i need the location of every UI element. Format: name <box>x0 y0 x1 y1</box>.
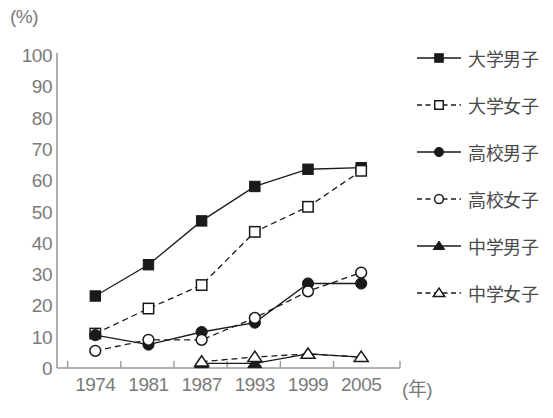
y-tick-label: 50 <box>4 202 52 221</box>
legend-label: 高校女子 <box>468 186 538 212</box>
y-tick-label: 20 <box>4 296 52 315</box>
y-tick-label: 30 <box>4 265 52 284</box>
legend-label: 大学女子 <box>468 92 538 118</box>
legend-marker-open-square-icon <box>416 98 462 112</box>
y-axis-tick-labels: 0102030405060708090100 <box>0 0 52 418</box>
series-2 <box>90 278 367 350</box>
x-tick-label: 1981 <box>128 374 168 396</box>
legend-item[interactable]: 高校男子 <box>416 140 538 164</box>
y-tick-label: 70 <box>4 139 52 158</box>
legend-marker-filled-triangle-icon <box>416 239 462 253</box>
x-tick-label: 1993 <box>235 374 275 396</box>
y-tick-label: 10 <box>4 327 52 346</box>
legend-item[interactable]: 中学男子 <box>416 234 538 258</box>
legend-item[interactable]: 大学男子 <box>416 46 538 70</box>
y-tick-label: 40 <box>4 233 52 252</box>
series-5 <box>195 348 369 366</box>
chart-legend: 大学男子大学女子高校男子高校女子中学男子中学女子 <box>416 46 553 326</box>
legend-label: 高校男子 <box>468 139 538 165</box>
axes <box>57 53 400 368</box>
y-tick-label: 100 <box>4 46 52 65</box>
x-axis-unit-label: (年) <box>402 374 432 401</box>
series-4 <box>195 348 369 368</box>
series-1 <box>90 166 366 339</box>
series-0 <box>90 162 366 301</box>
legend-marker-filled-square-icon <box>416 51 462 65</box>
legend-item[interactable]: 中学女子 <box>416 281 538 305</box>
y-tick-label: 90 <box>4 77 52 96</box>
x-tick-label: 1987 <box>182 374 222 396</box>
legend-label: 中学女子 <box>468 280 538 306</box>
x-tick-label: 2005 <box>341 374 381 396</box>
legend-marker-filled-circle-icon <box>416 145 462 159</box>
x-tick-label: 1999 <box>288 374 328 396</box>
legend-label: 中学男子 <box>468 233 538 259</box>
y-tick-label: 0 <box>4 359 52 378</box>
legend-marker-open-triangle-icon <box>416 286 462 300</box>
line-chart: (%) 0102030405060708090100 1974198119871… <box>0 0 553 418</box>
legend-item[interactable]: 高校女子 <box>416 187 538 211</box>
series-3 <box>90 267 367 356</box>
y-tick-label: 80 <box>4 108 52 127</box>
legend-item[interactable]: 大学女子 <box>416 93 538 117</box>
legend-marker-open-circle-icon <box>416 192 462 206</box>
y-tick-label: 60 <box>4 171 52 190</box>
legend-label: 大学男子 <box>468 45 538 71</box>
x-tick-label: 1974 <box>75 374 115 396</box>
